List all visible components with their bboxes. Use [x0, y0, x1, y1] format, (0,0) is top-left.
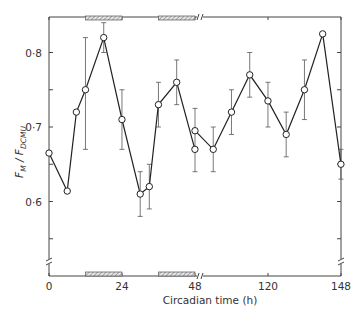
data-point — [338, 161, 344, 167]
data-point — [146, 183, 152, 189]
data-point — [119, 116, 125, 122]
data-point — [265, 98, 271, 104]
line-chart: 0·60·70·802448120148 Circadian time (h) … — [0, 0, 358, 316]
y-tick-label: 0·6 — [25, 196, 42, 208]
data-point — [301, 87, 307, 93]
dark-period-bars — [85, 16, 194, 276]
data-point — [173, 79, 179, 85]
data-point — [137, 191, 143, 197]
x-tick-label: 48 — [188, 280, 201, 292]
data-point — [64, 188, 70, 194]
x-tick-label: 148 — [331, 280, 351, 292]
tick-labels: 0·60·70·802448120148 — [25, 47, 351, 293]
data-point — [101, 34, 107, 40]
data-point — [73, 109, 79, 115]
dark-period-bar — [85, 272, 121, 276]
x-tick-label: 120 — [258, 280, 278, 292]
dark-period-bar — [158, 272, 194, 276]
x-tick-label: 24 — [115, 280, 129, 292]
data-point — [247, 72, 253, 78]
data-point — [319, 31, 325, 37]
data-point — [210, 146, 216, 152]
dark-period-bar — [158, 16, 194, 20]
dark-period-bar — [85, 16, 121, 20]
y-tick-label: 0·8 — [25, 47, 42, 59]
data-point — [228, 109, 234, 115]
data-point — [46, 150, 52, 156]
data-point — [283, 131, 289, 137]
data-point — [192, 128, 198, 134]
y-axis-label: FM / FDCMU — [13, 126, 28, 178]
chart-container: 0·60·70·802448120148 Circadian time (h) … — [0, 0, 358, 316]
data-point — [155, 101, 161, 107]
x-axis-label: Circadian time (h) — [163, 294, 257, 306]
data-point — [82, 87, 88, 93]
data-point — [192, 146, 198, 152]
x-tick-label: 0 — [46, 280, 53, 292]
